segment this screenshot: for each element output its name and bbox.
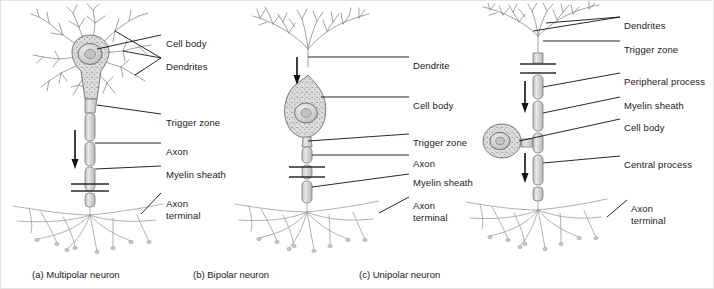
- dendrite-b: [253, 7, 369, 67]
- label-axon-terminal-c-line2: terminal: [631, 215, 666, 227]
- caption-panel-b: (b) Bipolar neuron: [193, 269, 269, 280]
- label-cell-body-c: Cell body: [624, 122, 665, 134]
- signal-direction-arrow-b: [294, 57, 301, 85]
- trigger-zone-b: [302, 137, 312, 147]
- label-dendrites-c: Dendrites: [624, 20, 666, 32]
- axon-terminals-a: [13, 204, 163, 251]
- axon-terminals-c: [466, 199, 607, 248]
- axon-a: [85, 113, 95, 207]
- leader-lines-b: [308, 57, 409, 213]
- label-axon-terminal-a-line1: Axon: [166, 198, 188, 210]
- label-axon-terminal-b-line2: terminal: [413, 212, 448, 224]
- label-axon-terminal-c-line1: Axon: [631, 203, 653, 215]
- neuron-diagram-artwork: [1, 1, 714, 289]
- dendrites-c: [483, 2, 599, 53]
- nucleolus-b: [301, 109, 311, 118]
- signal-direction-arrow-c-upper: [522, 81, 529, 113]
- label-central-process-c: Central process: [624, 159, 692, 171]
- trigger-zone-c: [533, 53, 543, 63]
- panel-c-unipolar-neuron: [466, 2, 627, 251]
- label-dendrites-a: Dendrites: [166, 61, 208, 73]
- label-axon-b: Axon: [413, 158, 435, 170]
- label-axon-a: Axon: [166, 146, 188, 158]
- label-myelin-sheath-a: Myelin sheath: [166, 169, 226, 181]
- label-trigger-zone-c: Trigger zone: [624, 44, 678, 56]
- label-dendrite-b: Dendrite: [413, 60, 450, 72]
- axon-break-symbol-c: [520, 64, 556, 73]
- label-myelin-sheath-b: Myelin sheath: [413, 177, 473, 189]
- label-axon-terminal-a-line2: terminal: [166, 210, 201, 222]
- axon-terminals-b: [235, 201, 379, 250]
- terminal-boutons-a: [35, 238, 151, 253]
- label-axon-terminal-b-line1: Axon: [413, 200, 435, 212]
- nucleolus-c: [496, 137, 505, 145]
- central-process-c: [533, 133, 543, 201]
- axon-b: [302, 147, 312, 203]
- label-cell-body-b: Cell body: [413, 100, 454, 112]
- panel-a-multipolar-neuron: [13, 4, 163, 254]
- label-cell-body-a: Cell body: [166, 38, 207, 50]
- label-trigger-zone-a: Trigger zone: [166, 117, 220, 129]
- neuron-types-figure: Cell body Dendrites Trigger zone Axon My…: [0, 0, 714, 289]
- nucleolus-a: [85, 49, 96, 59]
- caption-panel-a: (a) Multipolar neuron: [32, 269, 120, 280]
- signal-direction-arrow-a: [72, 130, 79, 169]
- trigger-zone-a: [85, 99, 97, 113]
- label-peripheral-process-c: Peripheral process: [624, 76, 705, 88]
- peripheral-process-c: [533, 75, 543, 131]
- panel-b-bipolar-neuron: [235, 7, 409, 253]
- label-trigger-zone-b: Trigger zone: [413, 137, 467, 149]
- caption-panel-c: (c) Unipolar neuron: [359, 269, 440, 280]
- label-myelin-sheath-c: Myelin sheath: [624, 100, 684, 112]
- signal-direction-arrow-c-lower: [522, 153, 529, 183]
